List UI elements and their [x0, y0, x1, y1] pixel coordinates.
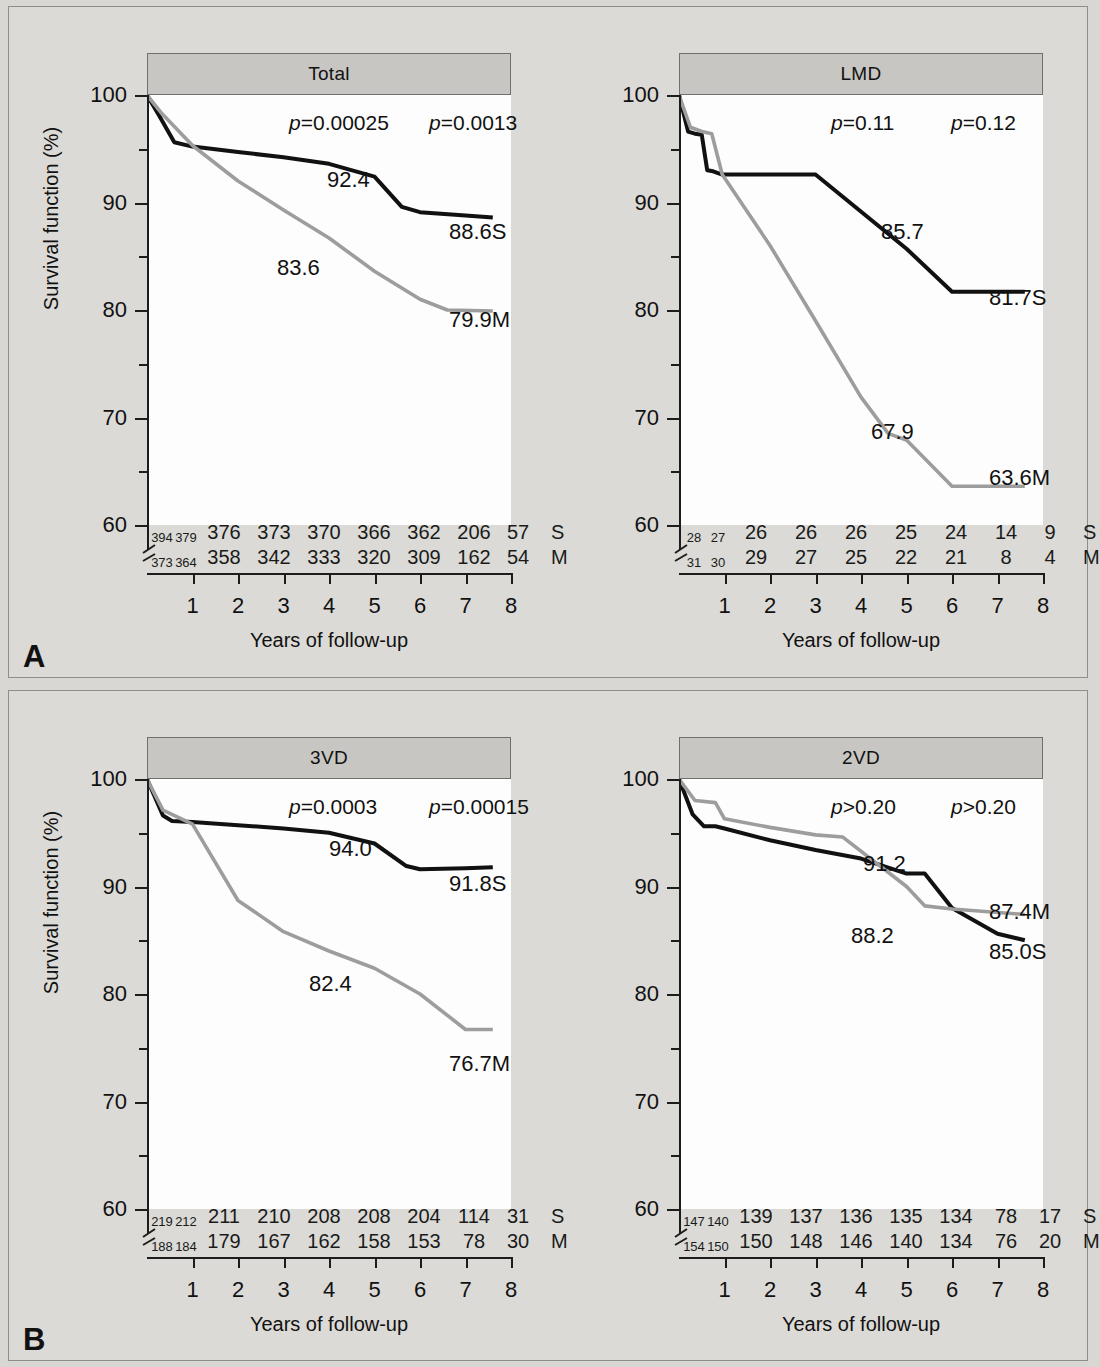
risk-value: 20	[1027, 1228, 1073, 1254]
y-tick-60	[667, 525, 679, 527]
risk-value: 26	[783, 519, 829, 545]
risk-value: 17	[1027, 1203, 1073, 1229]
x-tick-label-7: 7	[983, 1277, 1013, 1303]
risk-row-tag: M	[1083, 1228, 1100, 1254]
x-tick-7	[466, 573, 468, 584]
x-tick-3	[284, 573, 286, 584]
risk-value: 158	[351, 1228, 397, 1254]
risk-value: 134	[933, 1203, 979, 1229]
y-tick-minor-95	[139, 833, 147, 835]
x-tick-5	[907, 1257, 909, 1268]
y-tick-label-60: 60	[595, 1196, 659, 1222]
p-value-left: p=0.00025	[289, 111, 389, 135]
y-tick-100	[667, 779, 679, 781]
x-axis-title: Years of follow-up	[679, 629, 1043, 652]
risk-value: 188	[149, 1234, 175, 1260]
risk-value: 136	[833, 1203, 879, 1229]
y-tick-label-60: 60	[595, 512, 659, 538]
risk-value: 373	[149, 550, 175, 576]
risk-value: 358	[201, 544, 247, 570]
x-tick-label-1: 1	[710, 1277, 740, 1303]
survival-curves-2vd	[679, 779, 1043, 1209]
y-tick-label-100: 100	[63, 82, 127, 108]
x-tick-5	[375, 1257, 377, 1268]
risk-row-s: 21921221121020820820411431S	[147, 1203, 511, 1229]
curve-label-medical-mid: 88.2	[851, 923, 894, 949]
risk-value: 78	[451, 1228, 497, 1254]
risk-value: 114	[451, 1203, 497, 1229]
x-tick-7	[998, 573, 1000, 584]
risk-table-3vd: 21921221121020820820411431S1881841791671…	[147, 1203, 511, 1255]
risk-value: 153	[401, 1228, 447, 1254]
panel-header-label: Total	[308, 63, 350, 85]
x-tick-4	[329, 1257, 331, 1268]
y-tick-100	[135, 779, 147, 781]
risk-value: 76	[983, 1228, 1029, 1254]
y-tick-label-90: 90	[595, 190, 659, 216]
risk-value: 140	[883, 1228, 929, 1254]
chart-total: Total1009080706012345678Survival functio…	[9, 7, 529, 677]
x-tick-label-4: 4	[314, 593, 344, 619]
risk-value: 204	[401, 1203, 447, 1229]
y-tick-minor-65	[671, 1155, 679, 1157]
x-axis-title: Years of follow-up	[679, 1313, 1043, 1336]
y-tick-100	[135, 95, 147, 97]
risk-value: 364	[173, 550, 199, 576]
curve-label-medical-mid: 83.6	[277, 255, 320, 281]
y-axis-line	[147, 779, 149, 1234]
curve-label-surgery-mid: 91.2	[863, 851, 906, 877]
y-tick-80	[135, 994, 147, 996]
chart-2vd: 2VD1009080706012345678Years of follow-up…	[541, 691, 1061, 1360]
risk-row-s: 28272626262524149S	[679, 519, 1043, 545]
y-axis-line	[147, 95, 149, 550]
risk-table-lmd: 28272626262524149S3130292725222184M	[679, 519, 1043, 571]
x-tick-label-4: 4	[314, 1277, 344, 1303]
y-tick-90	[135, 203, 147, 205]
curve-label-surgery-end: 88.6S	[449, 219, 507, 245]
risk-value: 333	[301, 544, 347, 570]
x-tick-label-8: 8	[496, 593, 526, 619]
x-axis-title: Years of follow-up	[147, 629, 511, 652]
x-tick-label-4: 4	[846, 1277, 876, 1303]
panel-header-label: 3VD	[310, 747, 348, 769]
risk-value: 31	[681, 550, 707, 576]
x-tick-4	[329, 573, 331, 584]
x-tick-label-7: 7	[451, 593, 481, 619]
risk-value: 9	[1027, 519, 1073, 545]
x-tick-3	[284, 1257, 286, 1268]
risk-value: 135	[883, 1203, 929, 1229]
y-tick-minor-85	[671, 256, 679, 258]
x-tick-7	[466, 1257, 468, 1268]
risk-value: 27	[783, 544, 829, 570]
x-tick-6	[420, 573, 422, 584]
risk-value: 162	[451, 544, 497, 570]
curve-surgery	[147, 779, 493, 869]
risk-value: 342	[251, 544, 297, 570]
x-tick-label-8: 8	[1028, 593, 1058, 619]
risk-value: 373	[251, 519, 297, 545]
risk-value: 22	[883, 544, 929, 570]
curve-label-surgery-end: 91.8S	[449, 871, 507, 897]
x-tick-6	[952, 1257, 954, 1268]
x-tick-label-6: 6	[405, 593, 435, 619]
y-tick-label-100: 100	[63, 766, 127, 792]
p-value-left: p>0.20	[831, 795, 896, 819]
p-value-right: p>0.20	[951, 795, 1016, 819]
risk-value: 146	[833, 1228, 879, 1254]
figure-panel-a: A Total1009080706012345678Survival funct…	[8, 6, 1088, 678]
x-tick-label-3: 3	[801, 1277, 831, 1303]
curve-label-medical-mid: 82.4	[309, 971, 352, 997]
y-tick-90	[135, 887, 147, 889]
risk-value: 21	[933, 544, 979, 570]
y-tick-minor-75	[139, 364, 147, 366]
x-tick-8	[511, 573, 513, 584]
y-tick-minor-65	[671, 471, 679, 473]
risk-value: 148	[783, 1228, 829, 1254]
y-tick-70	[135, 418, 147, 420]
y-axis-line	[679, 779, 681, 1234]
risk-value: 25	[833, 544, 879, 570]
y-tick-minor-65	[139, 1155, 147, 1157]
risk-value: 309	[401, 544, 447, 570]
risk-value: 206	[451, 519, 497, 545]
y-tick-minor-95	[671, 833, 679, 835]
